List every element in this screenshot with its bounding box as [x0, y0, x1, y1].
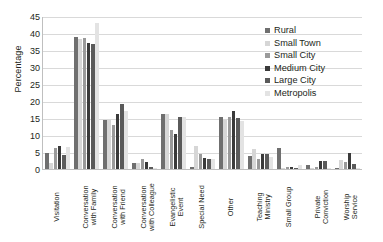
legend-item[interactable]: Large City	[265, 75, 325, 86]
legend-label: Small Town	[274, 38, 321, 49]
bar	[190, 167, 193, 169]
y-tick-label: 40	[20, 29, 40, 39]
legend-label: Metropolis	[274, 88, 316, 99]
x-tick-label: EvangelisticEvent	[158, 172, 187, 240]
legend-item[interactable]: Metropolis	[265, 88, 325, 99]
bar	[240, 121, 243, 169]
bar-group	[101, 17, 130, 169]
y-tick-label: 25	[20, 80, 40, 90]
bar	[165, 114, 168, 169]
legend-swatch-icon	[265, 28, 270, 33]
bar	[141, 159, 144, 169]
x-tick-label: TeachingMinistry	[246, 172, 275, 240]
x-tick-label: Other	[217, 172, 246, 240]
x-tick-label: Small Group	[275, 172, 304, 240]
legend-label: Rural	[274, 25, 296, 36]
bar	[161, 114, 164, 169]
bar	[232, 111, 235, 169]
legend-item[interactable]: Medium City	[265, 63, 325, 74]
y-tick-label: 35	[20, 46, 40, 56]
legend-item[interactable]: Small Town	[265, 38, 325, 49]
bar-group	[188, 17, 217, 169]
x-tick-label: Conversationwith Colleague	[129, 172, 158, 240]
y-tick-label: 5	[20, 148, 40, 158]
bar	[182, 117, 185, 169]
legend-swatch-icon	[265, 53, 270, 58]
bar-group	[159, 17, 188, 169]
bar	[335, 168, 338, 169]
x-tick-label: Visitation	[42, 172, 71, 240]
bar	[178, 117, 181, 169]
bar	[49, 163, 52, 169]
legend-item[interactable]: Small City	[265, 50, 325, 61]
bar	[265, 154, 268, 169]
bar	[74, 37, 77, 169]
bar	[112, 125, 115, 169]
x-axis-line	[43, 169, 362, 170]
y-tick-label: 45	[20, 12, 40, 22]
bar	[91, 44, 94, 169]
bar	[199, 154, 202, 169]
bar	[211, 159, 214, 169]
bar	[252, 149, 255, 169]
bar	[327, 168, 330, 169]
y-axis-tick-labels: 051015202530354045	[20, 12, 40, 172]
bar	[228, 117, 231, 169]
legend-label: Small City	[274, 50, 315, 61]
bar	[83, 38, 86, 169]
y-tick-label: 10	[20, 131, 40, 141]
legend-label: Large City	[274, 75, 316, 86]
bar	[78, 39, 81, 169]
bar	[194, 146, 197, 169]
bar	[203, 158, 206, 169]
bar	[54, 148, 57, 169]
bar	[294, 168, 297, 169]
bar	[120, 104, 123, 169]
bar	[132, 163, 135, 169]
x-tick-label: Special Need	[187, 172, 216, 240]
bar	[58, 146, 61, 169]
bar	[223, 120, 226, 169]
legend: RuralSmall TownSmall CityMedium CityLarg…	[265, 25, 325, 99]
bar	[319, 161, 322, 169]
bar	[174, 134, 177, 169]
bar	[107, 120, 110, 169]
bar	[315, 167, 318, 169]
bar	[149, 167, 152, 169]
bar-chart: Percentage 051015202530354045 Visitation…	[0, 0, 383, 242]
x-tick-label: Conversationwith Friend	[100, 172, 129, 240]
x-tick-label: PrivateConviction	[304, 172, 333, 240]
legend-label: Medium City	[274, 63, 325, 74]
bar-group	[72, 17, 101, 169]
legend-swatch-icon	[265, 41, 270, 46]
bar	[323, 161, 326, 169]
bar	[257, 159, 260, 169]
bar-group	[217, 17, 246, 169]
legend-swatch-icon	[265, 78, 270, 83]
bar	[66, 147, 69, 169]
bar-group	[333, 17, 362, 169]
bar	[103, 120, 106, 169]
bar	[170, 130, 173, 169]
legend-swatch-icon	[265, 91, 270, 96]
bar	[95, 23, 98, 169]
x-tick-label: Conversationwith Family	[71, 172, 100, 240]
bar	[269, 157, 272, 169]
bar	[261, 154, 264, 169]
bar	[87, 43, 90, 169]
x-axis-tick-labels: VisitationConversationwith FamilyConvers…	[42, 172, 362, 240]
bar	[207, 159, 210, 169]
bar-group	[43, 17, 72, 169]
legend-item[interactable]: Rural	[265, 25, 325, 36]
bar	[344, 162, 347, 169]
y-tick-label: 30	[20, 63, 40, 73]
bar	[286, 167, 289, 169]
y-tick-label: 15	[20, 114, 40, 124]
y-tick-label: 0	[20, 165, 40, 175]
bar	[298, 165, 301, 169]
bar	[62, 155, 65, 169]
bar	[248, 156, 251, 169]
bar	[348, 153, 351, 169]
bar	[136, 163, 139, 169]
bar	[236, 118, 239, 169]
